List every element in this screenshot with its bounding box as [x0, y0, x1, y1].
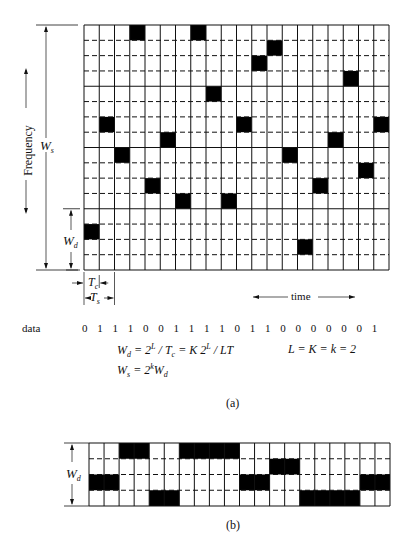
hop-cell	[145, 178, 160, 193]
equation-ws: Ws = 2kWd	[117, 362, 168, 379]
ws-label: Ws	[40, 138, 54, 155]
hop-cell	[343, 71, 358, 86]
data-label: data	[22, 322, 77, 334]
hop-cell	[328, 132, 343, 147]
data-bit: 0	[321, 322, 336, 334]
hop-cell	[130, 25, 145, 40]
hop-cell	[374, 117, 389, 132]
equation-params: L = K = k = 2	[288, 342, 356, 357]
hop-cell	[115, 148, 130, 163]
frequency-axis-label: Frequency	[21, 111, 36, 191]
hop-cell	[298, 239, 313, 254]
data-bit: 0	[230, 322, 245, 334]
hop-cell	[160, 132, 175, 147]
data-bit: 0	[77, 322, 92, 334]
data-bit: 1	[92, 322, 107, 334]
data-bits-row: data 01110011110110000001	[22, 322, 382, 334]
hop-cell	[99, 117, 114, 132]
data-bit: 1	[123, 322, 138, 334]
wd-label: Wd	[63, 233, 78, 250]
hop-cell	[282, 148, 297, 163]
data-bit: 0	[336, 322, 351, 334]
hop-cell	[191, 25, 206, 40]
hop-cell	[206, 86, 221, 101]
data-bit: 1	[367, 322, 382, 334]
ts-label: Ts	[90, 290, 100, 306]
wd-label-b: Wd	[66, 466, 81, 483]
data-bit: 0	[153, 322, 168, 334]
tc-label: Tc	[88, 275, 98, 291]
hop-cell	[221, 193, 236, 208]
data-bit: 0	[138, 322, 153, 334]
equation-wd: Wd = 2L / Tc = K 2L / LT	[117, 342, 233, 359]
frequency-hopping-grid-a	[0, 0, 404, 539]
data-bit: 0	[275, 322, 290, 334]
data-bit: 1	[199, 322, 214, 334]
hop-cell	[359, 163, 374, 178]
hop-cell	[267, 40, 282, 55]
caption-a: (a)	[226, 396, 239, 411]
hop-cell	[237, 117, 252, 132]
data-bit: 1	[169, 322, 184, 334]
data-bit: 0	[291, 322, 306, 334]
data-bit: 1	[108, 322, 123, 334]
data-bit: 1	[214, 322, 229, 334]
caption-b: (b)	[226, 518, 240, 533]
hop-cell	[176, 193, 191, 208]
data-bit: 1	[260, 322, 275, 334]
time-axis-label: time	[290, 290, 312, 302]
hop-cell	[84, 224, 99, 239]
hop-cell	[252, 56, 267, 71]
data-bit: 1	[245, 322, 260, 334]
hop-cell	[313, 178, 328, 193]
data-bit: 0	[352, 322, 367, 334]
data-bit: 0	[306, 322, 321, 334]
data-bit: 1	[184, 322, 199, 334]
